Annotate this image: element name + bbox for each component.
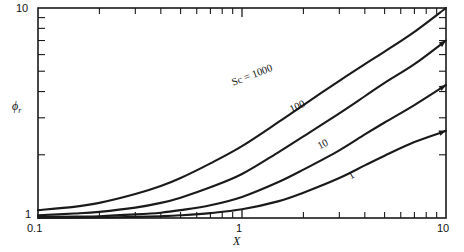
x-tick-label-0.1: 0.1 [27, 222, 42, 234]
axis-ticks [38, 8, 446, 218]
x-axis-title: X [233, 234, 240, 249]
y-axis-subscript: r [18, 106, 21, 115]
y-axis-title: ϕr [12, 99, 21, 115]
figure-container: 10 1 0.1 1 10 X ϕr Sc = 1000 100 10 1 [0, 0, 464, 252]
y-tick-label-10: 10 [16, 2, 28, 14]
x-tick-label-1: 1 [236, 222, 242, 234]
curve-lines [38, 8, 446, 218]
y-tick-label-1: 1 [25, 208, 31, 220]
x-tick-label-10: 10 [437, 222, 449, 234]
log-log-plot [0, 0, 464, 252]
plot-frame [38, 8, 446, 218]
